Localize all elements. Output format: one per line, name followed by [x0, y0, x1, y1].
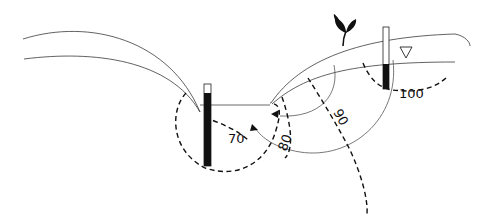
right-water-table — [272, 62, 455, 104]
left-water-table — [24, 56, 200, 112]
label-80: 80 — [275, 132, 295, 153]
right-piezometer — [383, 27, 389, 89]
label-70: 70 — [228, 131, 245, 146]
left-piezometer-water — [204, 93, 211, 166]
flow-arrow-deep — [250, 124, 258, 131]
flow-line-deep — [255, 60, 394, 153]
left-piezometer — [204, 84, 211, 166]
equipotential-90 — [308, 78, 367, 214]
label-90: 90 — [330, 106, 351, 128]
right-ground-surface — [271, 34, 470, 103]
plant-icon — [334, 14, 356, 46]
water-table-triangle-icon — [400, 47, 412, 58]
flow-net-diagram: 70 80 90 100 — [0, 0, 478, 224]
left-ground-surface — [23, 31, 200, 112]
label-100: 100 — [399, 86, 424, 101]
right-piezometer-water — [383, 64, 389, 89]
flow-arrow-shallow — [271, 110, 279, 118]
